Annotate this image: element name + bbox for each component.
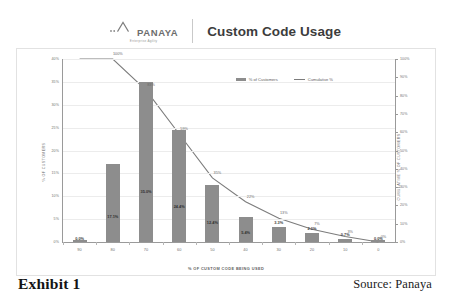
gridline [63, 151, 395, 152]
y-axis-tickmark-right [395, 59, 398, 60]
bar-value-label: 5.4% [241, 230, 250, 235]
bar-value-label: 35.0% [140, 189, 151, 194]
source-label: Source: Panaya [353, 277, 432, 292]
cumulative-value-label: 100% [113, 52, 123, 56]
bar[interactable] [106, 164, 120, 242]
y-axis-tickmark-right [395, 242, 398, 243]
bar-value-label: 24.4% [174, 204, 185, 209]
y-axis-tickmark-right [395, 187, 398, 188]
x-axis-tick: 10 [343, 247, 348, 252]
chart-container: % OF CUSTOMERS CUMULATIVE % OF CUSTOMERS… [16, 48, 436, 276]
cumulative-value-label: 35% [214, 171, 222, 175]
cumulative-value-label: 59% [180, 127, 188, 131]
bar[interactable] [205, 185, 219, 242]
y-axis-tickmark-right [395, 151, 398, 152]
page-title: Custom Code Usage [207, 24, 341, 39]
cumulative-value-label: 83% [147, 83, 155, 87]
cumulative-value-label: 22% [247, 195, 255, 199]
cumulative-value-label: 3% [347, 230, 353, 234]
cumulative-value-label: 13% [280, 211, 288, 215]
x-axis-tick: 90 [77, 247, 82, 252]
x-axis-tickmark [129, 242, 130, 245]
y-axis-tick-right: 50% [400, 149, 408, 153]
y-axis-tick-left: 35% [52, 80, 60, 84]
y-axis-tickmark-right [395, 205, 398, 206]
bar[interactable] [305, 233, 319, 242]
panaya-mountain-logo-icon [109, 19, 135, 37]
y-axis-tick-left: 5% [54, 217, 59, 221]
y-axis-tickmark-right [395, 96, 398, 97]
x-axis-tick: 20 [310, 247, 315, 252]
gridline [63, 128, 395, 129]
x-axis-tick: 50 [210, 247, 215, 252]
bar[interactable] [338, 239, 352, 242]
bar-value-label: 0.0% [75, 236, 84, 241]
y-axis-tick-right: 10% [400, 222, 408, 226]
x-axis-tickmark [262, 242, 263, 245]
x-axis-tickmark [196, 242, 197, 245]
cumulative-value-label: 0% [381, 235, 387, 239]
x-axis-tick: 80 [111, 247, 116, 252]
x-axis-tickmark [295, 242, 296, 245]
panaya-logo-text: PANAYA [137, 28, 178, 38]
cumulative-value-label: 7% [314, 222, 320, 226]
chart-header: PANAYA Enterprise Agility Custom Code Us… [0, 14, 450, 48]
y-axis-tick-right: 30% [400, 185, 408, 189]
y-axis-tickmark-right [395, 77, 398, 78]
plot-area: % of CustomersCumulative % 0%5%10%15%20%… [62, 59, 395, 243]
y-axis-tickmark-right [395, 114, 398, 115]
y-axis-tick-right: 90% [400, 75, 408, 79]
figure-footer: Exhibit 1 Source: Panaya [0, 272, 450, 296]
y-axis-tick-right: 80% [400, 94, 408, 98]
bar-value-label: 12.4% [207, 220, 218, 225]
y-axis-tick-left: 25% [52, 126, 60, 130]
bar[interactable] [371, 240, 385, 242]
y-axis-tick-right: 100% [400, 57, 410, 61]
bar-value-label: 3.3% [274, 220, 283, 225]
y-axis-tick-left: 0% [54, 240, 59, 244]
x-axis-tick: 60 [177, 247, 182, 252]
bar-value-label: 2.0% [308, 226, 317, 231]
x-axis-tickmark [163, 242, 164, 245]
gridline [63, 59, 395, 60]
x-axis-label: % OF CUSTOM CODE BEING USED [17, 266, 435, 271]
bar[interactable] [172, 130, 186, 242]
y-axis-tick-right: 60% [400, 130, 408, 134]
x-axis-tick: 0 [377, 247, 379, 252]
x-axis-tickmark [362, 242, 363, 245]
header-divider [192, 19, 193, 43]
x-axis-tickmark [63, 242, 64, 245]
y-axis-tick-right: 70% [400, 112, 408, 116]
y-axis-tickmark-right [395, 224, 398, 225]
y-axis-label-left: % OF CUSTOMERS [42, 143, 46, 182]
y-axis-tickmark-right [395, 132, 398, 133]
bar[interactable] [73, 240, 87, 242]
bar[interactable] [272, 227, 286, 242]
y-axis-tick-right: 20% [400, 203, 408, 207]
panaya-logo: PANAYA Enterprise Agility [109, 19, 178, 43]
x-axis-tick: 70 [144, 247, 149, 252]
x-axis-tick: 40 [243, 247, 248, 252]
gridline [63, 105, 395, 106]
y-axis-tick-right: 40% [400, 167, 408, 171]
panaya-logo-tagline: Enterprise Agility [130, 39, 158, 43]
x-axis-tickmark [229, 242, 230, 245]
gridline [63, 82, 395, 83]
y-axis-tick-right: 0% [400, 240, 405, 244]
y-axis-tick-left: 15% [52, 171, 60, 175]
y-axis-tick-left: 20% [52, 149, 60, 153]
y-axis-tick-left: 10% [52, 194, 60, 198]
bar-value-label: 17.1% [107, 214, 118, 219]
bar[interactable] [139, 82, 153, 242]
exhibit-label: Exhibit 1 [18, 275, 81, 293]
x-axis-tickmark [329, 242, 330, 245]
y-axis-tick-left: 40% [52, 57, 60, 61]
y-axis-tick-left: 30% [52, 103, 60, 107]
x-axis-tick: 30 [277, 247, 282, 252]
x-axis-tickmark [96, 242, 97, 245]
y-axis-tickmark-right [395, 169, 398, 170]
